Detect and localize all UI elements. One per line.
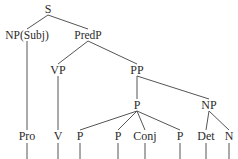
tree-node-npsubj: NP(Subj) bbox=[5, 29, 48, 41]
tree-node-pro: Pro bbox=[19, 130, 36, 142]
tree-node-conj: Conj bbox=[133, 130, 156, 142]
tree-node-predp: PredP bbox=[74, 29, 101, 41]
tree-node-v: V bbox=[54, 130, 63, 142]
terminal-stem-layer bbox=[27, 143, 229, 159]
tree-node-p1: P bbox=[77, 130, 84, 142]
tree-edge-predp-to-pp bbox=[88, 41, 137, 64]
tree-node-n: N bbox=[225, 130, 234, 142]
tree-node-p_head: P bbox=[134, 99, 141, 111]
tree-node-s: S bbox=[45, 3, 52, 15]
tree-edge-predp-to-vp bbox=[58, 41, 88, 64]
tree-node-p2: P bbox=[115, 130, 122, 142]
tree-edge-p_head-to-p1 bbox=[80, 111, 137, 130]
tree-edge-np_obj-to-n bbox=[209, 111, 229, 130]
tree-edge-s-to-predp bbox=[48, 15, 88, 29]
tree-node-np_obj: NP bbox=[201, 99, 216, 111]
tree-edge-pp-to-np_obj bbox=[137, 76, 209, 99]
tree-node-p3: P bbox=[177, 130, 184, 142]
tree-node-vp: VP bbox=[50, 64, 65, 76]
tree-node-det: Det bbox=[197, 130, 214, 142]
tree-edge-s-to-npsubj bbox=[27, 15, 48, 29]
tree-edge-np_obj-to-det bbox=[206, 111, 209, 130]
tree-node-pp: PP bbox=[130, 64, 143, 76]
syntax-tree-diagram: SNP(Subj)PredPVPPPPNPProVPPConjPDetN bbox=[0, 0, 238, 159]
